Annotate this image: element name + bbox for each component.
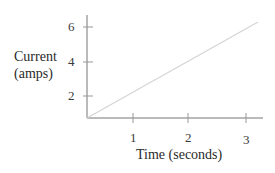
y-tick-label-6: 6 <box>68 19 75 35</box>
x-tick-label-3: 3 <box>243 132 250 148</box>
y-axis-label-line1: Current <box>14 49 57 65</box>
x-tick-label-2: 2 <box>185 130 192 146</box>
x-tick-label-1: 1 <box>130 130 137 146</box>
y-tick-label-2: 2 <box>68 88 75 104</box>
y-axis-label-line2: (amps) <box>14 66 53 82</box>
x-axis-label: Time (seconds) <box>136 147 222 163</box>
y-tick-label-4: 4 <box>68 54 75 70</box>
data-line-current <box>87 22 258 118</box>
